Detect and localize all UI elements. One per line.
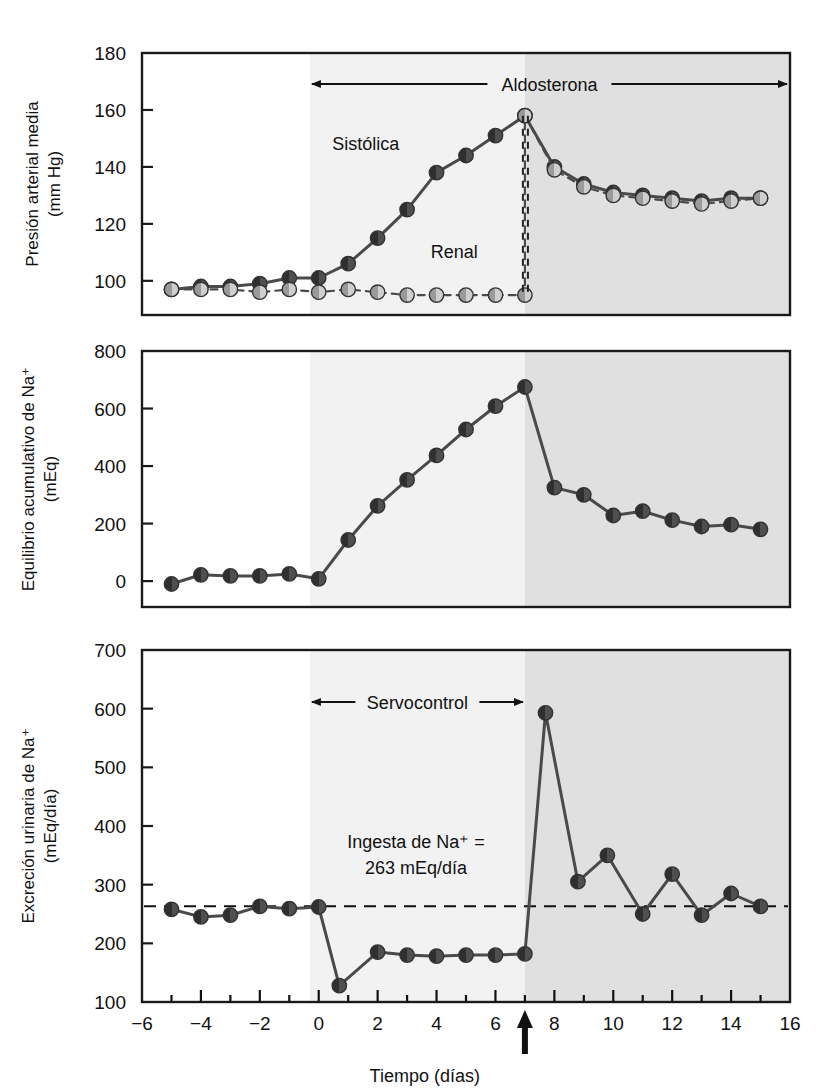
y-tick-label: 800 (94, 341, 126, 362)
data-point (429, 949, 443, 963)
data-point (488, 288, 502, 302)
x-tick-label: 16 (779, 1013, 800, 1034)
y-axis-title: Equilibrio acumulativo de Na⁺ (19, 367, 38, 591)
x-tick-label: 0 (313, 1013, 324, 1034)
data-point (606, 508, 620, 522)
y-tick-label: 400 (94, 456, 126, 477)
data-point (724, 194, 738, 208)
data-point (636, 191, 650, 205)
data-point (370, 285, 384, 299)
data-point (518, 947, 532, 961)
x-tick-label: 4 (431, 1013, 442, 1034)
data-point (518, 380, 532, 394)
data-point (253, 569, 267, 583)
data-point (694, 519, 708, 533)
data-point (694, 908, 708, 922)
y-tick-label: 400 (94, 816, 126, 837)
data-point (164, 902, 178, 916)
data-point (312, 271, 326, 285)
data-point (223, 569, 237, 583)
x-tick-label: 2 (372, 1013, 383, 1034)
data-point (459, 288, 473, 302)
data-point (694, 197, 708, 211)
series-label-systolica: Sistólica (332, 134, 400, 154)
y-tick-label: 120 (94, 214, 126, 235)
intake-label-line1: Ingesta de Na⁺ = (347, 832, 485, 852)
data-point (312, 572, 326, 586)
data-point (571, 875, 585, 889)
series-label-renal: Renal (431, 242, 478, 262)
data-point (753, 899, 767, 913)
aldosterone-label: Aldosterona (501, 75, 598, 95)
y-tick-label: 500 (94, 757, 126, 778)
data-point (547, 480, 561, 494)
data-point (341, 282, 355, 296)
panel-urinary-na-excretion: 100200300400500600700Excreción urinaria … (19, 640, 790, 1013)
data-point (724, 518, 738, 532)
data-point (164, 577, 178, 591)
y-tick-label: 200 (94, 933, 126, 954)
x-tick-label: −2 (249, 1013, 271, 1034)
y-tick-label: 700 (94, 640, 126, 661)
servocontrol-label: Servocontrol (367, 693, 468, 713)
data-point (194, 568, 208, 582)
data-point (538, 706, 552, 720)
day-marker-arrow (517, 1010, 533, 1054)
y-tick-label: 600 (94, 699, 126, 720)
data-point (459, 148, 473, 162)
chart-svg: 100120140160180Presión arterial media(mm… (0, 0, 831, 1090)
x-axis-title: Tiempo (días) (370, 1066, 480, 1086)
panel-mean-arterial-pressure: 100120140160180Presión arterial media(mm… (23, 43, 790, 315)
data-point (577, 180, 591, 194)
y-tick-label: 600 (94, 399, 126, 420)
data-point (194, 282, 208, 296)
data-point (636, 504, 650, 518)
y-axis-subtitle: (mEq) (41, 456, 60, 502)
y-tick-label: 160 (94, 100, 126, 121)
data-point (459, 948, 473, 962)
data-point (400, 288, 414, 302)
shading-band-dark (525, 351, 790, 607)
data-point (400, 473, 414, 487)
x-tick-label: 14 (721, 1013, 743, 1034)
y-tick-label: 100 (94, 271, 126, 292)
data-point (400, 202, 414, 216)
intake-label-line2: 263 mEq/día (365, 858, 468, 878)
data-point (282, 282, 296, 296)
data-point (488, 128, 502, 142)
y-axis-subtitle: (mEq/día) (41, 789, 60, 864)
y-axis-title: Excreción urinaria de Na⁺ (19, 728, 38, 923)
data-point (332, 978, 346, 992)
data-point (370, 499, 384, 513)
y-axis-subtitle: (mm Hg) (45, 151, 64, 217)
shading-band-dark (525, 650, 790, 1002)
data-point (282, 902, 296, 916)
x-tick-label: 6 (490, 1013, 501, 1034)
x-tick-label: 8 (549, 1013, 560, 1034)
data-point (665, 194, 679, 208)
data-point (724, 886, 738, 900)
shading-band-light (310, 351, 525, 607)
shading-band-light (310, 53, 525, 315)
x-axis: −6−4−20246810121416Tiempo (días) (131, 990, 800, 1086)
data-point (341, 257, 355, 271)
data-point (312, 285, 326, 299)
y-tick-label: 100 (94, 992, 126, 1013)
data-point (341, 533, 355, 547)
y-axis-title: Presión arterial media (23, 101, 42, 267)
data-point (370, 231, 384, 245)
data-point (429, 165, 443, 179)
data-point (606, 188, 620, 202)
data-point (282, 567, 296, 581)
x-tick-label: 12 (662, 1013, 683, 1034)
x-tick-label: 10 (603, 1013, 624, 1034)
data-point (164, 282, 178, 296)
data-point (429, 288, 443, 302)
panel-cumulative-na-balance: 0200400600800Equilibrio acumulativo de N… (19, 341, 790, 607)
data-point (600, 848, 614, 862)
data-point (488, 399, 502, 413)
data-point (518, 109, 532, 123)
data-point (459, 422, 473, 436)
data-point (488, 948, 502, 962)
y-tick-label: 200 (94, 514, 126, 535)
